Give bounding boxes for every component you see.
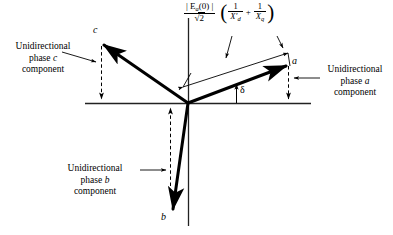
formula-term-1: 1 X′d <box>228 2 242 22</box>
formula-leader-left <box>226 36 232 58</box>
phasor-c-arrow <box>104 45 188 103</box>
annotation-phase-c: Unidirectional phase c component <box>4 41 82 76</box>
phasor-diagram-figure: | Ea(0) | √2 ( 1 X′d + 1 Xq ) c a b δ Un… <box>0 0 393 235</box>
phasor-label-a: a <box>292 55 297 67</box>
magnitude-dimension-right-tick <box>288 53 290 66</box>
phasor-label-b: b <box>161 211 166 223</box>
formula-term-2-denominator: Xq <box>254 12 266 22</box>
annotation-phase-c-line2: phase c <box>4 53 82 65</box>
annotation-phase-c-line1: Unidirectional <box>4 41 82 53</box>
annotation-phase-c-line3: component <box>4 64 82 76</box>
annotation-leader-lines-group <box>62 52 320 170</box>
formula-term-2: 1 Xq <box>254 2 266 22</box>
delta-angle-label: δ <box>240 84 245 96</box>
phasor-b-arrow <box>173 103 188 209</box>
annotation-phase-b-line3: component <box>52 186 138 198</box>
formula-leader-lines-group <box>226 36 283 58</box>
phasor-label-c: c <box>93 24 97 36</box>
formula-parenthesized-group: ( 1 X′d + 1 Xq ) <box>219 2 275 23</box>
formula-plus-operator: + <box>246 7 251 19</box>
formula-leader-right <box>277 36 283 48</box>
annotation-phase-a-line2: phase a <box>318 76 392 88</box>
annotation-phase-a-line3: component <box>318 87 392 99</box>
annotation-phase-b-line1: Unidirectional <box>52 163 138 175</box>
annotation-phase-b-line2: phase b <box>52 175 138 187</box>
annotation-phase-a-line1: Unidirectional <box>318 64 392 76</box>
formula-close-paren: ) <box>267 2 274 23</box>
formula-numerator: | Ea(0) | <box>184 2 215 12</box>
formula-main-fraction: | Ea(0) | √2 <box>184 2 215 23</box>
formula-denominator: √2 <box>192 14 206 23</box>
formula-open-paren: ( <box>220 2 227 23</box>
annotation-phase-b: Unidirectional phase b component <box>52 163 138 198</box>
phasor-diagram-canvas <box>0 0 393 235</box>
annotation-phase-a: Unidirectional phase a component <box>318 64 392 99</box>
formula-term-1-denominator: X′d <box>228 12 242 22</box>
magnitude-formula: | Ea(0) | √2 ( 1 X′d + 1 Xq ) <box>184 2 275 23</box>
